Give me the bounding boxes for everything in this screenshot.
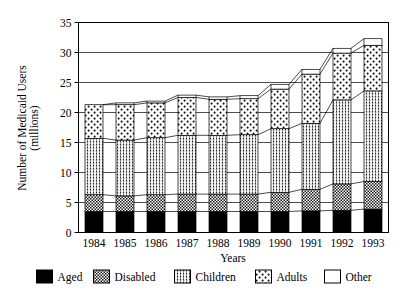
legend-item-adults: Adults bbox=[256, 270, 308, 283]
x-tick-label-1984: 1984 bbox=[83, 237, 106, 249]
bar-segment-adults bbox=[302, 74, 320, 123]
bar-segment-other bbox=[116, 103, 134, 105]
bar-segment-children bbox=[271, 129, 289, 193]
legend-label-disabled: Disabled bbox=[115, 271, 156, 283]
bar-segment-adults bbox=[147, 103, 165, 138]
bar-segment-disabled bbox=[85, 195, 103, 212]
y-tick-label: 10 bbox=[60, 167, 72, 179]
x-axis-title: Years bbox=[220, 252, 246, 264]
bar-segment-disabled bbox=[240, 194, 258, 211]
medicaid-users-stacked-bar-chart: Number of Medicaid Users (millions) 0510… bbox=[0, 0, 412, 301]
legend-item-aged: Aged bbox=[37, 270, 83, 284]
bar-segment-aged bbox=[209, 212, 227, 233]
x-tick-label-1989: 1989 bbox=[238, 237, 261, 249]
legend-swatch-children bbox=[175, 270, 191, 283]
bar-segment-disabled bbox=[364, 182, 382, 210]
bar-1990 bbox=[271, 84, 289, 232]
chart-canvas: Number of Medicaid Users (millions) 0510… bbox=[0, 0, 412, 301]
bar-1988 bbox=[209, 97, 227, 233]
bar-segment-other bbox=[178, 95, 196, 97]
bar-segment-aged bbox=[333, 210, 351, 232]
x-tick-label-1993: 1993 bbox=[362, 237, 385, 249]
bar-segment-aged bbox=[364, 209, 382, 232]
bar-1993 bbox=[364, 39, 382, 233]
bar-segment-disabled bbox=[209, 194, 227, 211]
bar-segment-aged bbox=[116, 212, 134, 233]
bar-segment-adults bbox=[85, 105, 103, 139]
bar-segment-children bbox=[178, 135, 196, 194]
bar-segment-other bbox=[271, 84, 289, 89]
legend-label-children: Children bbox=[196, 271, 236, 283]
bar-segment-other bbox=[364, 39, 382, 46]
legend-swatch-adults bbox=[256, 270, 272, 283]
bar-segment-disabled bbox=[178, 194, 196, 211]
bar-1992 bbox=[333, 48, 351, 232]
bar-segment-children bbox=[85, 138, 103, 194]
bar-segment-children bbox=[364, 91, 382, 182]
bar-segment-disabled bbox=[271, 192, 289, 211]
bar-segment-other bbox=[147, 101, 165, 103]
bar-segment-adults bbox=[178, 98, 196, 136]
bar-segment-adults bbox=[116, 105, 134, 140]
bar-1985 bbox=[116, 103, 134, 233]
y-tick-label: 35 bbox=[60, 17, 72, 29]
legend-item-children: Children bbox=[175, 270, 236, 283]
bar-segment-children bbox=[209, 135, 227, 194]
bar-segment-other bbox=[302, 69, 320, 74]
bar-1986 bbox=[147, 101, 165, 232]
legend-swatch-aged bbox=[37, 270, 53, 283]
bar-1987 bbox=[178, 95, 196, 232]
legend-item-other: Other bbox=[325, 270, 372, 283]
bar-segment-aged bbox=[147, 212, 165, 233]
bar-segment-children bbox=[302, 123, 320, 189]
bar-segment-adults bbox=[271, 89, 289, 129]
bar-segment-aged bbox=[240, 212, 258, 233]
bar-1989 bbox=[240, 96, 258, 233]
y-tick-label: 30 bbox=[60, 47, 72, 59]
x-tick-label-1987: 1987 bbox=[176, 237, 199, 249]
bar-segment-aged bbox=[302, 211, 320, 233]
legend-swatch-disabled bbox=[94, 270, 110, 283]
legend-label-adults: Adults bbox=[277, 271, 308, 283]
y-tick-label: 25 bbox=[60, 77, 72, 89]
x-tick-label-1990: 1990 bbox=[269, 237, 292, 249]
y-axis-title-line1: Number of Medicaid Users bbox=[16, 65, 28, 191]
bar-segment-children bbox=[240, 135, 258, 194]
x-tick-label-1991: 1991 bbox=[300, 237, 323, 249]
bar-segment-disabled bbox=[116, 196, 134, 212]
y-tick-label: 5 bbox=[66, 197, 72, 209]
bar-segment-adults bbox=[209, 99, 227, 135]
bar-segment-other bbox=[209, 97, 227, 99]
bar-segment-disabled bbox=[333, 184, 351, 210]
bar-segment-aged bbox=[178, 212, 196, 233]
bar-segment-children bbox=[147, 138, 165, 195]
legend-swatch-other bbox=[325, 270, 341, 283]
bar-1984 bbox=[85, 105, 103, 233]
bar-segment-children bbox=[333, 100, 351, 184]
bar-segment-aged bbox=[85, 212, 103, 233]
bar-segment-disabled bbox=[147, 195, 165, 212]
bar-segment-other bbox=[240, 96, 258, 99]
y-axis-title-line2: (millions) bbox=[28, 105, 41, 151]
y-tick-label: 20 bbox=[60, 107, 72, 119]
bar-segment-disabled bbox=[302, 189, 320, 211]
x-tick-label-1986: 1986 bbox=[145, 237, 168, 249]
bar-segment-adults bbox=[364, 45, 382, 91]
bar-1991 bbox=[302, 69, 320, 232]
bar-segment-children bbox=[116, 140, 134, 196]
y-tick-label: 0 bbox=[66, 227, 72, 239]
bar-segment-adults bbox=[240, 99, 258, 135]
bar-segment-other bbox=[333, 48, 351, 53]
x-tick-label-1985: 1985 bbox=[114, 237, 137, 249]
bar-segment-aged bbox=[271, 212, 289, 233]
x-tick-label-1992: 1992 bbox=[331, 237, 354, 249]
x-tick-label-1988: 1988 bbox=[207, 237, 230, 249]
legend-label-other: Other bbox=[346, 271, 372, 283]
bar-segment-adults bbox=[333, 53, 351, 100]
y-tick-label: 15 bbox=[60, 137, 72, 149]
legend-label-aged: Aged bbox=[58, 271, 83, 284]
legend-item-disabled: Disabled bbox=[94, 270, 156, 283]
